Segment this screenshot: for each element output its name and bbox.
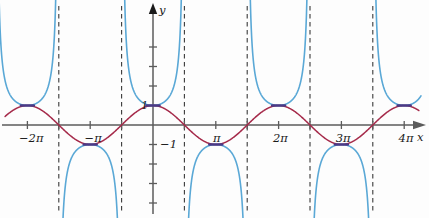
x-tick-label: −2π [19,131,44,145]
y-axis-arrowhead [149,3,157,14]
plot-canvas [0,0,429,218]
x-tick-label: 4π [399,131,414,145]
x-axis-label: x [417,130,424,144]
secant-branch [63,145,118,219]
y-tick-label-minus-one: −1 [160,137,177,151]
x-axis-arrowhead [413,121,426,129]
secant-branch [188,145,243,219]
secant-branch [376,0,421,105]
secant-branch [250,0,307,105]
x-tick-label: 2π [273,131,288,145]
y-tick-label-one: 1 [141,98,148,112]
secant-branch [0,0,56,105]
x-tick-label: −π [85,131,102,145]
x-tick-label: π [213,131,221,145]
y-axis-label: y [159,3,166,17]
x-tick-label: 3π [336,131,351,145]
graph-figure: −2π−ππ2π3π4π1−1yx [0,0,429,218]
secant-branch [314,145,369,219]
